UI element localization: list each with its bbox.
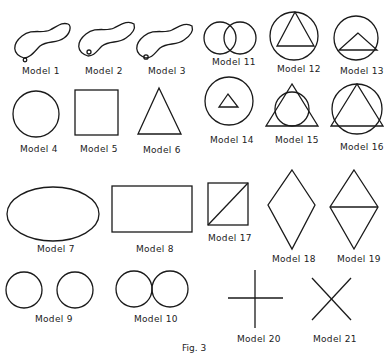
model-12-label: Model 12: [277, 64, 321, 74]
model-6-label: Model 6: [143, 145, 181, 155]
model-10-label: Model 10: [134, 314, 178, 324]
model-20-shape: [228, 270, 283, 328]
model-13-label: Model 13: [340, 66, 384, 76]
model-5-shape: [75, 90, 118, 135]
model-12-shape: [270, 12, 318, 60]
model-11-shape: [204, 22, 256, 54]
model-21-shape: [312, 278, 351, 320]
model-1-shape: [15, 23, 70, 61]
model-1-label: Model 1: [22, 66, 60, 76]
model-15-shape: [266, 84, 318, 126]
model-2-label: Model 2: [85, 66, 123, 76]
model-14-label: Model 14: [210, 135, 254, 145]
model-5-label: Model 5: [80, 144, 118, 154]
model-16-label: Model 16: [340, 142, 384, 152]
model-13-shape: [334, 16, 378, 60]
model-19-label: Model 19: [337, 254, 381, 264]
model-17-label: Model 17: [208, 233, 252, 243]
model-18-label: Model 18: [272, 254, 316, 264]
model-3-label: Model 3: [148, 66, 186, 76]
model-9-shape: [6, 272, 93, 308]
model-4-label: Model 4: [20, 144, 58, 154]
model-7-label: Model 7: [37, 244, 75, 254]
model-7-shape: [7, 187, 99, 241]
model-20-label: Model 20: [237, 334, 281, 344]
model-14-shape: [205, 77, 253, 125]
model-15-label: Model 15: [275, 135, 319, 145]
model-6-shape: [138, 88, 181, 134]
model-16-shape: [331, 84, 383, 134]
model-19-shape: [330, 170, 378, 249]
model-18-shape: [268, 170, 315, 249]
model-8-label: Model 8: [136, 244, 174, 254]
model-4-shape: [13, 91, 59, 137]
model-21-label: Model 21: [313, 334, 357, 344]
model-8-shape: [112, 186, 192, 232]
model-3-shape: [137, 24, 193, 59]
model-10-shape: [116, 271, 188, 307]
model-2-shape: [79, 22, 135, 56]
figure-caption: Fig. 3: [182, 343, 206, 353]
model-9-label: Model 9: [35, 314, 73, 324]
model-17-shape: [208, 183, 248, 225]
model-11-label: Model 11: [212, 57, 256, 67]
